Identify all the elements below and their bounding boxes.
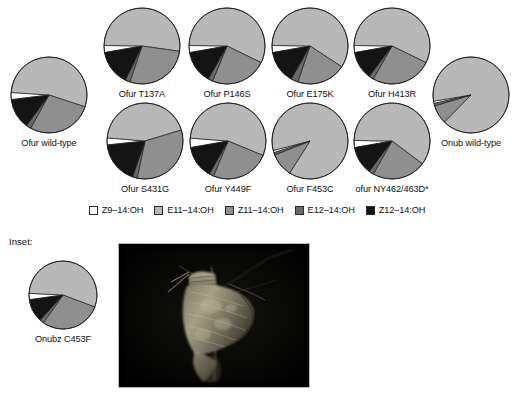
legend-swatch [366,206,375,215]
pie-chart: ofur NY462/463D* [351,100,433,195]
pie-chart-label: Ofur wild-type [8,138,90,149]
legend-item: Z9–14:OH [89,205,144,215]
pie-chart: Ofur H413R [351,5,433,100]
pie-chart-graphic [351,100,433,182]
pie-chart: Ofur E175K [269,5,351,100]
legend-label: E12–14:OH [308,205,355,215]
legend-swatch [295,206,304,215]
pie-chart-graphic [104,100,186,182]
legend-item: E11–14:OH [154,205,213,215]
pie-chart-label: Onub wild-type [430,138,512,149]
legend-item: E12–14:OH [295,205,355,215]
pie-chart-graphic [101,5,183,87]
pie-chart-label: Ofur P146S [186,89,268,100]
legend-label: Z9–14:OH [102,205,144,215]
legend-label: Z12–14:OH [379,205,426,215]
pie-chart: Onub wild-type [430,54,512,149]
pie-chart-graphic [269,5,351,87]
pie-chart-graphic [269,100,351,182]
legend-label: E11–14:OH [167,205,213,215]
pie-chart: Ofur S431G [104,100,186,195]
pie-chart: Onubz C453F [26,258,100,345]
pie-chart-graphic [186,5,268,87]
pie-chart-label: Ofur Y449F [187,184,269,195]
pie-chart: Ofur wild-type [8,54,90,149]
legend-swatch [225,206,234,215]
pie-slice [104,8,180,51]
moth-photograph [118,243,310,388]
legend-swatch [89,206,98,215]
pie-chart-graphic [430,54,512,136]
pie-chart-graphic [8,54,90,136]
pie-chart-label: Ofur S431G [104,184,186,195]
pie-chart-label: Ofur T137A [101,89,183,100]
moth-photo-image [119,244,309,387]
pie-chart: Ofur F453C [269,100,351,195]
pie-chart-graphic [26,258,100,332]
pie-chart-label: Onubz C453F [26,334,100,345]
pie-chart-label: ofur NY462/463D* [351,184,433,195]
legend-label: Z11–14:OH [238,205,284,215]
legend-swatch [154,206,163,215]
pie-chart-label: Ofur F453C [269,184,351,195]
inset-title: Inset: [9,236,32,247]
legend-item: Z11–14:OH [225,205,284,215]
pie-chart: Ofur Y449F [187,100,269,195]
pie-chart-graphic [187,100,269,182]
pie-chart-label: Ofur E175K [269,89,351,100]
legend-item: Z12–14:OH [366,205,426,215]
pie-chart: Ofur P146S [186,5,268,100]
pie-chart-label: Ofur H413R [351,89,433,100]
chart-legend: Z9–14:OHE11–14:OHZ11–14:OHE12–14:OHZ12–1… [0,205,514,215]
pie-chart: Ofur T137A [101,5,183,100]
pie-chart-graphic [351,5,433,87]
